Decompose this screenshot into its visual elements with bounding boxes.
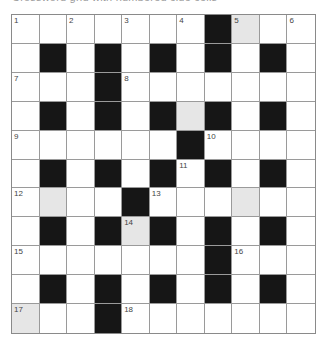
crossword-cell[interactable] [177, 275, 205, 304]
crossword-cell[interactable] [177, 102, 205, 131]
crossword-cell[interactable] [12, 160, 40, 189]
crossword-cell[interactable] [177, 44, 205, 73]
black-square [260, 44, 288, 73]
crossword-cell[interactable] [67, 217, 95, 246]
crossword-cell[interactable] [122, 275, 150, 304]
crossword-cell[interactable] [67, 304, 95, 333]
crossword-cell[interactable] [177, 188, 205, 217]
crossword-cell[interactable] [232, 217, 260, 246]
black-square [40, 275, 68, 304]
crossword-cell[interactable]: 6 [287, 15, 315, 44]
black-square [40, 44, 68, 73]
crossword-cell[interactable]: 7 [12, 73, 40, 102]
crossword-cell[interactable] [12, 275, 40, 304]
crossword-cell[interactable] [67, 102, 95, 131]
crossword-cell[interactable] [122, 102, 150, 131]
crossword-cell[interactable]: 4 [177, 15, 205, 44]
crossword-cell[interactable]: 12 [12, 188, 40, 217]
crossword-cell[interactable] [12, 217, 40, 246]
crossword-cell[interactable]: 1 [12, 15, 40, 44]
crossword-cell[interactable] [67, 246, 95, 275]
clue-number: 8 [124, 74, 128, 83]
crossword-cell[interactable] [40, 246, 68, 275]
crossword-cell[interactable] [67, 44, 95, 73]
crossword-cell[interactable]: 17 [12, 304, 40, 333]
crossword-cell[interactable] [232, 102, 260, 131]
crossword-cell[interactable] [67, 275, 95, 304]
crossword-cell[interactable] [67, 160, 95, 189]
crossword-cell[interactable]: 11 [177, 160, 205, 189]
crossword-cell[interactable] [287, 102, 315, 131]
crossword-cell[interactable] [40, 304, 68, 333]
crossword-cell[interactable] [287, 275, 315, 304]
crossword-cell[interactable] [287, 217, 315, 246]
clue-number: 7 [14, 74, 18, 83]
crossword-cell[interactable] [287, 246, 315, 275]
crossword-cell[interactable] [95, 15, 123, 44]
crossword-cell[interactable] [12, 102, 40, 131]
crossword-cell[interactable] [40, 188, 68, 217]
crossword-cell[interactable]: 3 [122, 15, 150, 44]
crossword-cell[interactable] [205, 188, 233, 217]
crossword-cell[interactable] [67, 188, 95, 217]
crossword-cell[interactable] [150, 15, 178, 44]
crossword-cell[interactable] [260, 131, 288, 160]
clue-number: 15 [14, 247, 23, 256]
crossword-cell[interactable] [177, 217, 205, 246]
crossword-cell[interactable] [287, 44, 315, 73]
crossword-cell[interactable] [260, 188, 288, 217]
crossword-cell[interactable] [260, 73, 288, 102]
crossword-cell[interactable]: 18 [122, 304, 150, 333]
crossword-cell[interactable] [287, 160, 315, 189]
crossword-cell[interactable] [177, 304, 205, 333]
crossword-cell[interactable] [150, 246, 178, 275]
crossword-cell[interactable]: 5 [232, 15, 260, 44]
clue-number: 6 [289, 16, 293, 25]
crossword-cell[interactable] [95, 131, 123, 160]
crossword-cell[interactable] [122, 44, 150, 73]
crossword-cell[interactable] [287, 188, 315, 217]
crossword-cell[interactable]: 14 [122, 217, 150, 246]
crossword-cell[interactable] [287, 131, 315, 160]
crossword-cell[interactable]: 2 [67, 15, 95, 44]
crossword-cell[interactable] [150, 304, 178, 333]
crossword-cell[interactable] [232, 188, 260, 217]
crossword-cell[interactable] [205, 73, 233, 102]
crossword-cell[interactable] [122, 131, 150, 160]
crossword-cell[interactable] [122, 246, 150, 275]
black-square [205, 217, 233, 246]
crossword-cell[interactable] [95, 246, 123, 275]
crossword-cell[interactable] [122, 160, 150, 189]
crossword-cell[interactable] [232, 131, 260, 160]
crossword-cell[interactable] [12, 44, 40, 73]
crossword-cell[interactable]: 8 [122, 73, 150, 102]
crossword-cell[interactable] [40, 131, 68, 160]
crossword-cell[interactable] [150, 131, 178, 160]
crossword-cell[interactable]: 15 [12, 246, 40, 275]
crossword-cell[interactable] [232, 44, 260, 73]
crossword-cell[interactable]: 9 [12, 131, 40, 160]
crossword-cell[interactable] [260, 304, 288, 333]
crossword-cell[interactable] [177, 73, 205, 102]
crossword-cell[interactable] [95, 188, 123, 217]
crossword-cell[interactable] [287, 304, 315, 333]
crossword-cell[interactable] [40, 73, 68, 102]
black-square [260, 217, 288, 246]
crossword-cell[interactable] [287, 73, 315, 102]
crossword-grid: 123456789101112131415161718 [11, 14, 316, 334]
crossword-cell[interactable] [177, 246, 205, 275]
crossword-cell[interactable]: 16 [232, 246, 260, 275]
crossword-cell[interactable] [260, 15, 288, 44]
crossword-cell[interactable] [67, 73, 95, 102]
crossword-cell[interactable] [150, 73, 178, 102]
crossword-cell[interactable] [67, 131, 95, 160]
crossword-cell[interactable] [40, 15, 68, 44]
crossword-cell[interactable]: 10 [205, 131, 233, 160]
crossword-cell[interactable] [205, 304, 233, 333]
crossword-cell[interactable] [232, 160, 260, 189]
crossword-cell[interactable] [232, 73, 260, 102]
crossword-cell[interactable] [260, 246, 288, 275]
crossword-cell[interactable] [232, 275, 260, 304]
crossword-cell[interactable] [232, 304, 260, 333]
crossword-cell[interactable]: 13 [150, 188, 178, 217]
